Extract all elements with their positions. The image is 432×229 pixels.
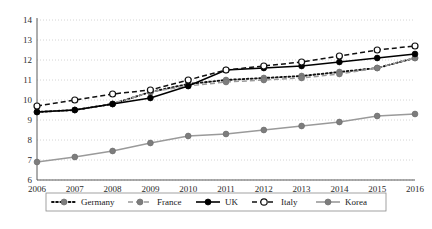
data-point [299, 59, 305, 65]
data-point [223, 67, 229, 73]
legend-marker-icon [61, 199, 67, 205]
data-point [185, 83, 191, 89]
legend-marker-icon [205, 199, 211, 205]
data-point [110, 148, 116, 154]
y-tick-label: 7 [28, 155, 33, 165]
data-point [337, 119, 343, 125]
line-chart: 67891011121314 2006200720082009201020112… [0, 0, 432, 229]
data-point [337, 59, 343, 65]
data-point [374, 55, 380, 61]
chart-canvas: 67891011121314 2006200720082009201020112… [0, 0, 432, 229]
series-italy [34, 43, 418, 109]
axes [37, 18, 415, 180]
y-tick-label: 9 [28, 115, 33, 125]
data-point [72, 154, 78, 160]
data-point [147, 87, 153, 93]
data-point [412, 111, 418, 117]
data-point [148, 95, 154, 101]
data-point [412, 51, 418, 57]
gridlines [37, 20, 415, 180]
x-tick-label: 2013 [293, 184, 312, 194]
x-tick-label: 2010 [179, 184, 198, 194]
data-point [299, 123, 305, 129]
series-france [34, 55, 418, 115]
legend-marker-icon [261, 199, 267, 205]
y-tick-label: 11 [23, 75, 32, 85]
data-point [261, 63, 267, 69]
data-point [337, 71, 343, 77]
data-point [72, 107, 78, 113]
legend-marker-icon [325, 199, 331, 205]
data-point [223, 79, 229, 85]
data-point [412, 43, 418, 49]
data-point [374, 47, 380, 53]
y-axis-tick-labels: 67891011121314 [23, 15, 33, 185]
y-tick-label: 12 [23, 55, 32, 65]
data-point [223, 131, 229, 137]
data-point [148, 140, 154, 146]
data-point [110, 101, 116, 107]
data-point [185, 133, 191, 139]
x-axis-tick-labels: 2006200720082009201020112012201320142015… [28, 184, 425, 194]
x-tick-label: 2014 [330, 184, 349, 194]
data-point [110, 91, 116, 97]
chart-legend: GermanyFranceUKItalyKorea [46, 193, 386, 211]
x-tick-label: 2009 [141, 184, 160, 194]
data-point [261, 77, 267, 83]
y-tick-label: 8 [28, 135, 33, 145]
data-point [185, 77, 191, 83]
x-tick-label: 2015 [368, 184, 387, 194]
y-tick-label: 14 [23, 15, 33, 25]
legend-label: France [157, 197, 182, 207]
data-point [34, 159, 40, 165]
data-point [374, 65, 380, 71]
series-line [37, 46, 415, 106]
legend-marker-icon [137, 199, 143, 205]
legend-label: Germany [81, 197, 115, 207]
data-point [336, 53, 342, 59]
x-tick-label: 2008 [104, 184, 123, 194]
series-korea [34, 111, 418, 165]
y-tick-label: 10 [23, 95, 33, 105]
legend-label: UK [225, 197, 238, 207]
data-point [34, 109, 40, 115]
data-point [374, 113, 380, 119]
legend-label: Italy [281, 197, 298, 207]
legend-label: Korea [345, 197, 367, 207]
data-point [34, 103, 40, 109]
data-point [261, 127, 267, 133]
x-tick-label: 2012 [255, 184, 273, 194]
x-tick-label: 2006 [28, 184, 47, 194]
x-tick-label: 2011 [217, 184, 235, 194]
x-tick-label: 2007 [66, 184, 85, 194]
y-tick-label: 13 [23, 35, 33, 45]
data-series-layer [34, 43, 418, 165]
data-point [72, 97, 78, 103]
x-tick-label: 2016 [406, 184, 425, 194]
series-line [37, 114, 415, 162]
data-point [299, 75, 305, 81]
